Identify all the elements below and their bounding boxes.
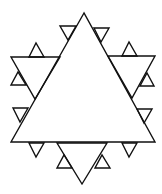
koch-snowflake-diagram — [0, 0, 162, 194]
small-triangle-bottom-tri-right — [95, 155, 110, 168]
small-triangle-bottom-left — [29, 143, 44, 157]
small-triangle-ul-top — [29, 43, 44, 57]
upper-left-triangle — [11, 57, 60, 99]
upper-right-triangle — [108, 56, 155, 98]
small-triangle-bottom-tri-left — [57, 155, 72, 168]
small-triangle-top-left — [60, 26, 76, 40]
small-triangle-right-edge — [137, 109, 152, 123]
main-triangle — [11, 13, 155, 142]
bottom-triangle — [57, 143, 107, 184]
small-triangle-bottom-right — [122, 143, 137, 157]
small-triangle-ur-top — [122, 42, 137, 56]
